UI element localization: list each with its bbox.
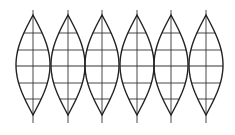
gore	[120, 10, 154, 123]
gore	[85, 10, 119, 123]
globe-gores-diagram	[0, 0, 235, 135]
gore	[51, 10, 85, 123]
gore	[16, 10, 50, 123]
gore	[189, 10, 223, 123]
gores-svg	[0, 0, 235, 135]
gore	[154, 10, 188, 123]
